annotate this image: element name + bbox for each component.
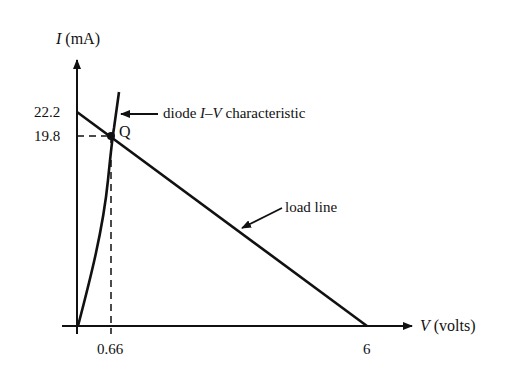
load-line-annotation: load line bbox=[285, 200, 337, 215]
x-tick-6: 6 bbox=[363, 342, 371, 357]
y-axis-unit: (mA) bbox=[61, 30, 100, 47]
q-point-marker bbox=[107, 132, 115, 140]
diode-annotation-prefix: diode bbox=[163, 105, 200, 121]
y-tick-22-2: 22.2 bbox=[34, 105, 60, 120]
x-axis-label: V (volts) bbox=[420, 318, 476, 334]
diode-annotation: diode I–V characteristic bbox=[163, 106, 305, 121]
diode-annotation-suffix: characteristic bbox=[222, 105, 306, 121]
load-line-annotation-arrow bbox=[242, 208, 282, 228]
load-line bbox=[77, 112, 367, 326]
y-tick-19-8: 19.8 bbox=[34, 129, 60, 144]
chart-canvas bbox=[0, 0, 520, 369]
diode-annotation-iv: I–V bbox=[200, 105, 222, 121]
x-tick-0-66: 0.66 bbox=[97, 342, 123, 357]
x-axis-variable: V bbox=[420, 317, 430, 334]
y-axis-label: I (mA) bbox=[56, 31, 100, 47]
q-label: Q bbox=[119, 124, 131, 140]
x-axis-unit: (volts) bbox=[430, 317, 476, 334]
